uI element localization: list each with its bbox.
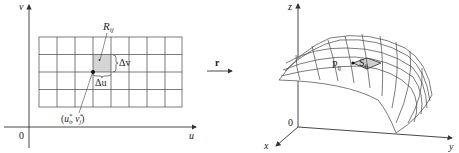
origin-label-xyz: 0 — [288, 117, 293, 128]
delta-u-label: Δu — [95, 77, 106, 88]
xyz-space: z y x 0 Pij — [263, 1, 454, 152]
region-center-dot — [99, 59, 101, 61]
u-axis-label: u — [189, 130, 194, 141]
region-label: Rij — [102, 20, 114, 34]
mapping-r: r — [207, 57, 232, 71]
mapping-label: r — [215, 57, 220, 68]
sample-point-label: (u*i, v*j) — [61, 113, 84, 125]
y-axis — [298, 127, 452, 138]
parametric-surface-diagram: v u 0 Δv Δu Rij — [0, 0, 459, 153]
x-axis-label: x — [263, 140, 269, 151]
origin-label-uv: 0 — [19, 130, 24, 141]
delta-v-label: Δv — [119, 57, 130, 68]
point-pij — [351, 61, 354, 64]
uv-plane: v u 0 Δv Δu Rij — [4, 1, 196, 148]
surface-mesh — [279, 34, 432, 133]
z-axis-label: z — [287, 1, 292, 12]
v-axis-label: v — [19, 1, 24, 12]
x-axis — [276, 127, 298, 146]
uv-grid — [39, 37, 182, 107]
region-rij — [93, 55, 111, 73]
sample-point — [91, 70, 95, 74]
y-axis-label: y — [448, 141, 454, 152]
delta-v-brace — [113, 55, 118, 72]
